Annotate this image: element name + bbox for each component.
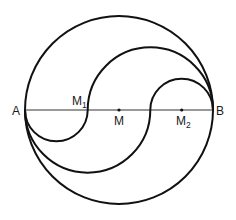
diagram-canvas: A B M M1 M2 — [0, 0, 236, 220]
label-m1: M1 — [72, 94, 87, 110]
label-m2-main: M — [176, 114, 186, 128]
label-m2-sub: 2 — [186, 120, 191, 130]
label-b: B — [216, 104, 224, 118]
label-m1-main: M — [72, 94, 82, 108]
label-m1-sub: 1 — [82, 100, 87, 110]
label-m2: M2 — [176, 114, 191, 130]
point-m-dot — [117, 108, 120, 111]
label-m: M — [114, 114, 124, 128]
label-a: A — [12, 104, 20, 118]
point-m2-dot — [180, 108, 183, 111]
